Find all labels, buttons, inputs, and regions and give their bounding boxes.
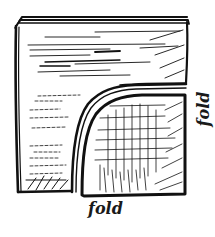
inner-panel-crosshatch: [95, 102, 182, 192]
outer-left-edge: [16, 26, 18, 192]
inner-corner-outline: [82, 95, 185, 196]
napkin-drawing: [15, 17, 189, 196]
top-panel-right-edge: [186, 22, 187, 83]
stacked-top-edges: [15, 17, 189, 28]
fold-label-right: fold: [196, 92, 212, 127]
left-panel-corner-hatching: [26, 176, 68, 190]
fold-label-bottom: fold: [88, 201, 123, 217]
left-panel-bottom-edge: [18, 191, 72, 192]
top-panel-hatching: [28, 30, 184, 78]
